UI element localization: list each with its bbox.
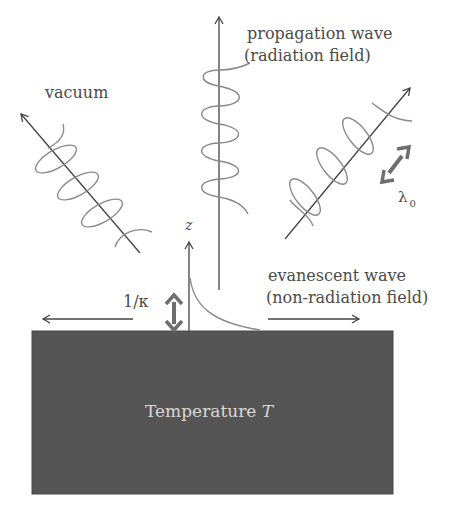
left-wave-axis [21,114,140,253]
temperature-label: Temperature T [145,403,273,420]
right-wave-helix [284,103,412,226]
wavelength-label: λ0 [398,190,414,205]
wavelength-double-arrow-icon [382,147,409,182]
radiation-field-label: (radiation field) [244,48,371,64]
wavelength-symbol: λ [398,188,408,206]
temperature-variable: T [262,401,273,421]
thermal-radiation-diagram: vacuum propagation wave (radiation field… [0,0,461,505]
diagram-graphics [0,0,461,505]
decay-length-double-arrow-icon [166,295,182,330]
vacuum-label: vacuum [45,85,108,101]
propagation-wave-helix [202,63,250,214]
z-axis-label: z [185,218,192,232]
evanescent-wave-label: evanescent wave [268,268,406,284]
wavelength-subscript: 0 [410,198,416,209]
right-wave-axis [285,88,410,239]
propagation-wave-label: propagation wave [247,26,392,42]
left-wave-helix [32,124,152,247]
evanescent-decay-curve [190,278,260,330]
temperature-text: Temperature [145,401,262,421]
non-radiation-field-label: (non-radiation field) [266,290,428,306]
decay-length-label: 1/κ [123,294,149,310]
